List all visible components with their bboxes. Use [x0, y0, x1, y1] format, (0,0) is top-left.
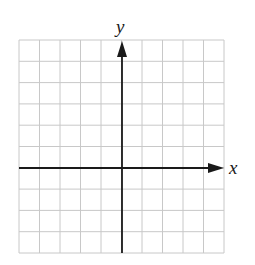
x-axis-arrow-icon — [208, 163, 224, 173]
y-axis-arrow-icon — [117, 41, 127, 57]
coordinate-plane: x y — [0, 0, 255, 265]
y-axis-label: y — [114, 16, 125, 37]
x-axis-label: x — [228, 157, 238, 178]
